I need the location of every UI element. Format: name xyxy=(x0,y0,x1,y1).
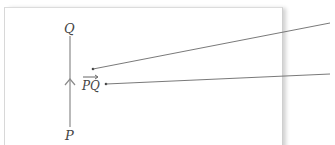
leader-line-1 xyxy=(93,23,330,69)
point-p-label: P xyxy=(65,129,74,142)
point-q-label: Q xyxy=(64,22,75,35)
leader-line-2 xyxy=(106,74,330,84)
vector-pq-label: PQ xyxy=(82,80,100,92)
diagram-canvas xyxy=(0,0,335,145)
